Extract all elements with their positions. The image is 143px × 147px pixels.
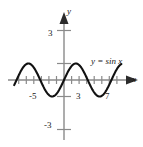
y-axis-label: y xyxy=(67,7,71,16)
plot-area xyxy=(0,0,143,147)
x-axis-label: x xyxy=(132,75,136,84)
curve-equation-label: y = sin x xyxy=(91,57,122,66)
x-tick-label-neg5: -5 xyxy=(29,92,37,101)
sine-function-graph: -5 3 7 3 -3 y x y = sin x xyxy=(0,0,143,147)
y-tick-label-3: 3 xyxy=(48,29,53,38)
x-tick-label-7: 7 xyxy=(105,92,110,101)
x-tick-label-3: 3 xyxy=(76,92,81,101)
y-tick-label-neg3: -3 xyxy=(44,121,52,130)
